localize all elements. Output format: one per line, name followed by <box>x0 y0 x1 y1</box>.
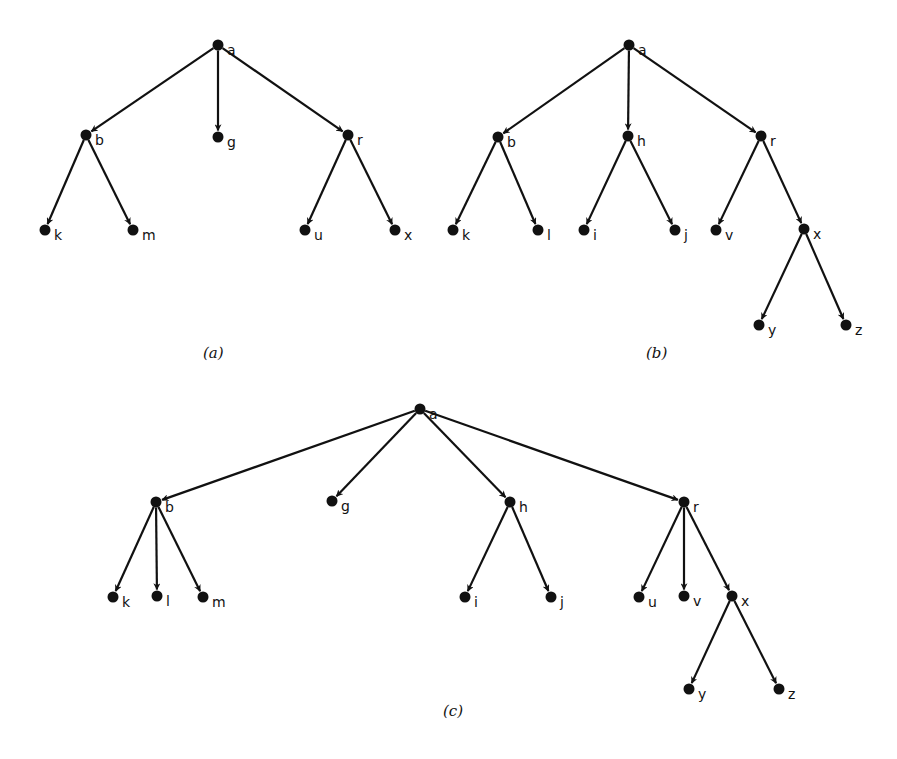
node-h <box>623 131 634 142</box>
node-label-y: y <box>698 686 706 702</box>
node-j <box>670 225 681 236</box>
node-k <box>40 225 51 236</box>
node-label-m: m <box>142 227 156 243</box>
edge-r-x <box>763 141 801 223</box>
node-u <box>300 225 311 236</box>
edge-h-i <box>587 141 626 224</box>
node-x <box>727 591 738 602</box>
node-r <box>756 131 767 142</box>
edge-a-r <box>425 411 678 500</box>
edge-a-h <box>628 50 629 129</box>
node-j <box>546 592 557 603</box>
node-v <box>679 591 690 602</box>
edge-b-k <box>116 507 154 591</box>
edge-b-m <box>158 507 200 591</box>
tree-figure: abgrkmux(a) abhrklijvxyz(b) abghrklmijuv… <box>0 0 897 759</box>
node-b <box>81 130 92 141</box>
node-r <box>679 497 690 508</box>
edge-x-y <box>762 234 802 319</box>
node-label-x: x <box>404 227 412 243</box>
edge-a-b <box>91 48 213 131</box>
node-x <box>390 225 401 236</box>
edge-r-x <box>350 140 392 224</box>
node-label-i: i <box>474 594 478 610</box>
node-label-v: v <box>693 593 701 609</box>
node-label-k: k <box>54 227 63 243</box>
node-label-a: a <box>429 406 438 422</box>
node-label-h: h <box>519 499 528 515</box>
node-b <box>151 497 162 508</box>
node-g <box>213 132 224 143</box>
node-label-j: j <box>683 227 688 243</box>
node-label-h: h <box>637 133 646 149</box>
node-label-g: g <box>227 134 236 150</box>
node-label-z: z <box>855 322 862 338</box>
edge-b-k <box>48 140 84 224</box>
edge-x-z <box>734 601 776 683</box>
node-label-g: g <box>341 498 350 514</box>
node-label-a: a <box>227 42 236 58</box>
caption-b: (b) <box>646 344 667 362</box>
node-a <box>624 40 635 51</box>
node-i <box>460 592 471 603</box>
tree-c: abghrklmijuvxyz(c) <box>108 404 796 721</box>
node-x <box>799 224 810 235</box>
node-i <box>579 225 590 236</box>
caption-c: (c) <box>443 702 463 720</box>
node-label-r: r <box>770 133 776 149</box>
node-y <box>754 320 765 331</box>
node-label-v: v <box>725 227 733 243</box>
node-label-b: b <box>95 132 104 148</box>
node-label-b: b <box>507 134 516 150</box>
edge-h-j <box>630 141 672 224</box>
node-z <box>841 320 852 331</box>
node-l <box>533 225 544 236</box>
edge-h-i <box>468 507 508 591</box>
edge-r-u <box>642 507 682 591</box>
node-label-k: k <box>462 227 471 243</box>
node-v <box>711 225 722 236</box>
node-label-r: r <box>693 499 699 515</box>
node-k <box>448 225 459 236</box>
node-g <box>327 496 338 507</box>
node-k <box>108 592 119 603</box>
caption-a: (a) <box>203 344 224 362</box>
node-z <box>774 684 785 695</box>
node-label-j: j <box>559 594 564 610</box>
node-m <box>128 225 139 236</box>
node-label-r: r <box>357 132 363 148</box>
node-label-l: l <box>547 227 551 243</box>
node-label-x: x <box>813 226 821 242</box>
node-b <box>493 132 504 143</box>
edge-r-v <box>719 141 759 224</box>
node-label-k: k <box>122 594 131 610</box>
node-a <box>415 404 426 415</box>
node-y <box>684 684 695 695</box>
node-label-u: u <box>648 594 657 610</box>
node-m <box>198 592 209 603</box>
node-r <box>343 130 354 141</box>
edge-b-k <box>456 142 496 224</box>
edge-b-l <box>500 142 535 224</box>
edge-x-z <box>806 234 843 319</box>
edge-b-l <box>156 507 157 589</box>
node-label-a: a <box>638 42 647 58</box>
edge-h-j <box>512 507 548 591</box>
node-label-z: z <box>788 686 795 702</box>
tree-a: abgrkmux(a) <box>40 40 413 363</box>
node-a <box>213 40 224 51</box>
edge-b-m <box>88 140 130 224</box>
edge-a-b <box>503 48 624 133</box>
node-label-x: x <box>741 593 749 609</box>
edge-a-r <box>634 48 756 132</box>
tree-b: abhrklijvxyz(b) <box>448 40 863 363</box>
edge-r-u <box>308 140 346 224</box>
node-label-l: l <box>166 593 170 609</box>
edge-r-x <box>687 507 730 590</box>
edge-a-r <box>223 48 343 131</box>
node-label-y: y <box>768 322 776 338</box>
node-label-u: u <box>314 227 323 243</box>
node-u <box>634 592 645 603</box>
node-label-i: i <box>593 227 597 243</box>
edge-x-y <box>692 601 730 683</box>
